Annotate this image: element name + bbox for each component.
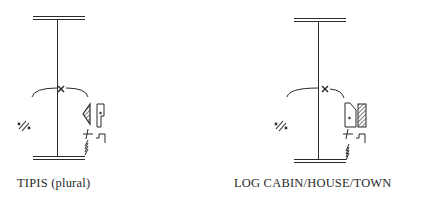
log-cabin-figure — [275, 19, 366, 163]
hatched-base-icon — [85, 140, 88, 155]
top-double-bar — [294, 19, 346, 22]
log-cabin-caption: LOG CABIN/HOUSE/TOWN — [234, 176, 392, 191]
hatched-base-icon — [346, 144, 349, 160]
flag-dot — [100, 112, 102, 114]
x-mark-icon — [322, 86, 328, 92]
arc — [287, 88, 344, 98]
cross-tick-icon — [83, 129, 93, 139]
bottom-double-bar — [294, 160, 346, 163]
dotted-slash-mark-icon — [18, 121, 30, 131]
flag-rectangle-icon — [97, 104, 104, 127]
bottom-double-bar — [33, 157, 85, 160]
slanted-rectangle-dot — [349, 117, 351, 119]
tipis-caption: TIPIS (plural) — [17, 176, 90, 191]
step-mark-icon — [96, 134, 105, 143]
cross-tick-icon — [343, 129, 353, 139]
x-mark-icon — [58, 86, 64, 92]
top-double-bar — [33, 17, 85, 20]
hatched-rectangle-icon — [358, 104, 366, 127]
step-mark-icon — [356, 134, 365, 143]
tipis-figure — [18, 17, 105, 160]
dotted-slash-mark-icon — [275, 121, 287, 131]
slanted-rectangle-icon — [345, 103, 356, 127]
hatched-triangle-icon — [83, 104, 90, 124]
